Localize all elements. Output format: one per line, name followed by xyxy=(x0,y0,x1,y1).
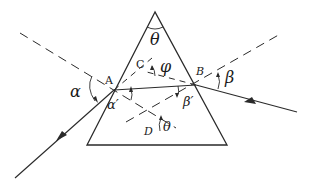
apex-angle-arc xyxy=(147,27,163,29)
incident-ray-arrow-icon xyxy=(56,131,67,141)
point-A-label: A xyxy=(104,74,114,87)
apex-theta-label: θ xyxy=(150,30,160,49)
alpha-label: α xyxy=(70,82,81,101)
beta-label: β xyxy=(224,68,234,87)
beta-prime-label: β′ xyxy=(182,94,194,109)
incident-extension-line xyxy=(114,58,152,90)
theta-D-label: θ xyxy=(163,119,171,134)
beta-prime-arc-arrow-icon xyxy=(175,93,179,98)
prism-refraction-diagram: θ φ α α′ β′ β θ A B C D xyxy=(0,0,311,185)
point-C-label: C xyxy=(136,58,144,71)
point-D-label: D xyxy=(143,125,153,138)
beta-arc-arrow-icon xyxy=(216,72,220,77)
phi-label: φ xyxy=(160,57,172,76)
alpha-prime-label: α′ xyxy=(107,97,119,112)
emergent-ray xyxy=(196,85,297,112)
point-B-label: B xyxy=(195,65,204,78)
